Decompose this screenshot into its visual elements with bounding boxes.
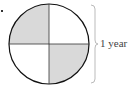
bracket-label: 1 year	[100, 37, 127, 49]
brace-bracket	[91, 5, 98, 83]
